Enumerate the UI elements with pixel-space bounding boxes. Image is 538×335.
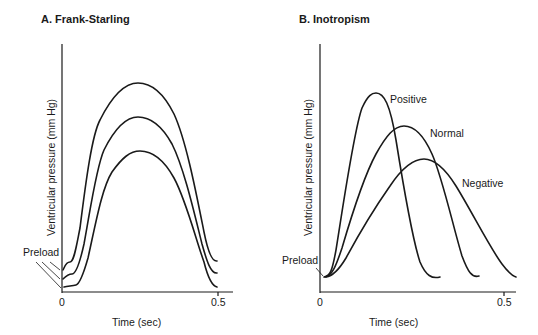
preload-arrow [36, 262, 61, 288]
preload-label: Preload [23, 246, 59, 258]
y-axis-label: Ventricular pressure (mm Hg) [302, 99, 314, 236]
preload-arrow [50, 262, 60, 270]
x-tick-label-0: 0 [59, 296, 65, 308]
x-axis-label: Time (sec) [369, 316, 418, 328]
preload-label: Preload [282, 254, 318, 266]
y-axis-label: Ventricular pressure (mm Hg) [45, 99, 57, 236]
figure: A. Frank-Starling 0 0.5 Time (sec) Ventr… [0, 0, 538, 335]
panel-a-title: A. Frank-Starling [41, 13, 130, 25]
x-tick-label-0: 0 [317, 296, 323, 308]
x-tick-label-05: 0.5 [497, 296, 512, 308]
label-positive: Positive [390, 93, 427, 105]
panel-frank-starling: A. Frank-Starling 0 0.5 Time (sec) Ventr… [23, 13, 233, 328]
panel-inotropism: B. Inotropism 0 0.5 Time (sec) Ventricul… [282, 13, 516, 328]
curve-medium-preload [63, 117, 217, 279]
panel-b-title: B. Inotropism [299, 13, 370, 25]
x-axis-label: Time (sec) [112, 316, 161, 328]
label-negative: Negative [462, 177, 504, 189]
label-normal: Normal [430, 127, 464, 139]
curve-high-preload [63, 83, 217, 270]
x-tick-label-05: 0.5 [211, 296, 226, 308]
